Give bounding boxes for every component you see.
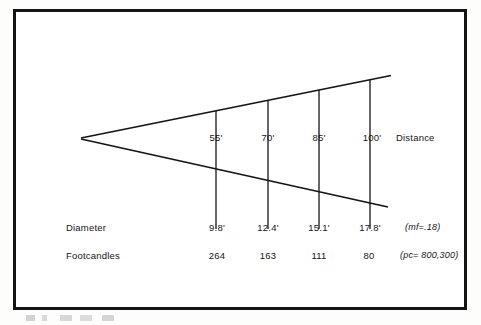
footcandles-value-85: 111 — [311, 250, 326, 261]
scan-artifact — [26, 315, 176, 321]
distance-label-70: 70' — [262, 132, 275, 143]
distance-axis-title: Distance — [396, 132, 435, 143]
beam-diagram-svg — [0, 0, 481, 325]
distance-label-85: 85' — [313, 132, 326, 143]
distance-label-100: 100' — [363, 132, 381, 143]
footcandles-value-55: 264 — [209, 250, 225, 261]
diameter-value-100: 17.8' — [359, 222, 380, 233]
diameter-value-55: 9.8' — [209, 222, 225, 233]
maintenance-factor-note: (mf=.18) — [405, 222, 440, 232]
diameter-row-title: Diameter — [66, 222, 106, 233]
diameter-value-70: 12.4' — [257, 222, 278, 233]
peak-candela-note: (pc= 800,300) — [400, 250, 458, 260]
beam-lower-edge-line — [81, 139, 388, 207]
figure-container: 55' 70' 85' 100' Distance Diameter 9.8' … — [0, 0, 481, 325]
beam-upper-edge-line — [81, 76, 391, 139]
distance-label-55: 55' — [210, 132, 223, 143]
footcandles-value-70: 163 — [260, 250, 276, 261]
footcandles-row-title: Footcandles — [66, 250, 120, 261]
footcandles-value-100: 80 — [364, 250, 375, 261]
diameter-value-85: 15.1' — [308, 222, 329, 233]
